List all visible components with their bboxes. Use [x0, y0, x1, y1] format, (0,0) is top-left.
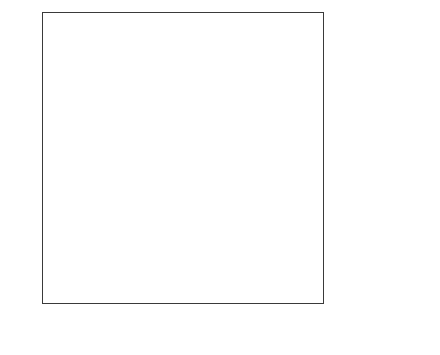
y-axis	[0, 0, 42, 316]
plot-area	[42, 12, 324, 304]
area-series-group	[43, 13, 323, 303]
x-axis	[0, 306, 440, 322]
stacked-area-chart	[0, 0, 440, 355]
